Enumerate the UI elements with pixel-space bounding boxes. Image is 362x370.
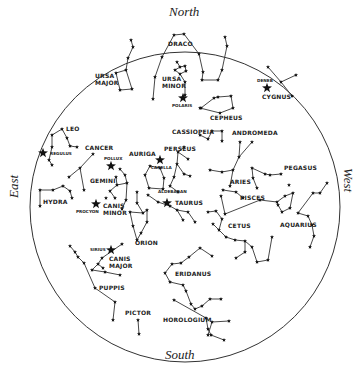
eridanus-label: ERIDANUS (175, 270, 211, 277)
horologium-line (212, 321, 229, 322)
cepheus-line (220, 108, 233, 113)
pictor-line (138, 320, 139, 334)
leo-star-icon (68, 144, 72, 148)
canis-major-star-icon (118, 273, 122, 277)
leo-label: LEO (66, 125, 80, 132)
andromeda-star-icon (220, 170, 224, 174)
aquarius-label: AQUARIUS (280, 221, 317, 228)
deneb-star-icon (262, 83, 272, 92)
taurus-line (177, 210, 183, 220)
eridanus-star-icon (210, 254, 214, 258)
puppis-star-icon (111, 318, 115, 322)
cepheus-line (218, 96, 231, 97)
star-chart: DRACOURSAMAJORURSAMINORCYGNUSCEPHEUSCASS… (0, 0, 362, 370)
pollux-star-icon (106, 161, 116, 170)
eridanus-line (202, 299, 210, 306)
pisces-star-icon (223, 212, 227, 216)
pisces-line (290, 193, 293, 208)
eridanus-line (186, 291, 191, 304)
horologium-star-icon (206, 333, 210, 337)
pegasus-star-icon (268, 173, 272, 177)
eridanus-line (170, 282, 183, 285)
leo-star-icon (47, 158, 51, 162)
perseus-line (177, 152, 178, 164)
andromeda-line (233, 157, 239, 170)
canis-major-star-icon (100, 256, 104, 260)
perseus-line (170, 177, 174, 186)
aldebaran-label: ALDEBARAN (158, 189, 187, 194)
hydra-star-icon (38, 204, 42, 208)
cetus-line (257, 260, 268, 262)
cetus-line (245, 241, 252, 247)
cepheus-line (231, 96, 233, 108)
perseus-star-icon (172, 175, 176, 179)
orion-line (130, 212, 133, 226)
hydra-line (63, 186, 70, 191)
orion-line (130, 212, 143, 213)
perseus-star-icon (186, 157, 190, 161)
ursa-minor-label: URSA (162, 75, 181, 82)
ursa-major-line (128, 47, 133, 58)
taurus-star-icon (175, 208, 179, 212)
ursa-major-label: MAJOR (95, 79, 119, 87)
andromeda-star-icon (208, 168, 212, 172)
draco-label: DRACO (168, 40, 193, 47)
pegasus-label: PEGASUS (284, 164, 317, 171)
deneb-label: DENEB (257, 78, 273, 83)
pisces-label: PISCES (240, 194, 265, 201)
puppis-label: PUPPIS (99, 284, 125, 291)
leo-star-icon (75, 145, 79, 149)
ursa-minor-label: MINOR (162, 82, 186, 89)
aries-star-icon (221, 188, 225, 192)
cetus-line (236, 252, 245, 258)
aquarius-line (298, 193, 313, 213)
taurus-line (148, 195, 158, 202)
constellation-stars (38, 32, 329, 342)
pegasus-star-icon (279, 172, 283, 176)
canis-minor-label: CANIS (103, 202, 125, 209)
orion-line (133, 226, 137, 240)
pegasus-star-icon (255, 186, 259, 190)
canis-major-label: MAJOR (109, 262, 133, 270)
draco-line (199, 54, 203, 72)
pegasus-line (253, 178, 257, 188)
cancer-label: CANCER (85, 144, 114, 151)
regulus-label: REGULUS (50, 151, 72, 156)
polaris-label: POLARIS (172, 103, 192, 108)
eridanus-star-icon (181, 283, 185, 287)
eridanus-star-icon (219, 297, 223, 301)
puppis-line (113, 302, 115, 320)
draco-star-icon (172, 33, 176, 37)
regulus-star-icon (38, 148, 48, 157)
procyon-label: PROCYON (76, 209, 99, 214)
ursa-minor-star-icon (175, 60, 179, 64)
ursa-major-star-icon (131, 45, 135, 49)
cetus-star-icon (234, 256, 238, 260)
pollux-label: POLLUX (104, 156, 123, 161)
cetus-line (252, 247, 257, 262)
auriga-star-icon (147, 186, 151, 190)
andromeda-line (210, 170, 222, 172)
cancer-star-icon (82, 188, 86, 192)
cygnus-label: CYGNUS (262, 93, 291, 100)
pisces-line (277, 196, 285, 202)
constellation-labels: DRACOURSAMAJORURSAMINORCYGNUSCEPHEUSCASS… (43, 40, 317, 323)
pisces-star-icon (280, 210, 284, 214)
canis-minor-label: MINOR (103, 209, 127, 216)
capella-star-icon (155, 155, 165, 164)
eridanus-line (189, 248, 200, 257)
pisces-line (225, 200, 260, 214)
canis-major-star-icon (103, 270, 107, 274)
draco-star-icon (200, 78, 204, 82)
aquarius-star-icon (325, 181, 329, 185)
procyon-star-icon (91, 199, 101, 208)
ursa-major-star-icon (130, 87, 134, 91)
eridanus-line (200, 248, 212, 256)
gemini-line (110, 185, 117, 191)
eridanus-star-icon (168, 280, 172, 284)
sirius-label: SIRIUS (90, 247, 106, 252)
andromeda-line (239, 142, 252, 157)
gemini-line (126, 183, 127, 200)
gemini-label: GEMINI (90, 177, 116, 184)
canis-minor-star-icon (104, 196, 108, 200)
